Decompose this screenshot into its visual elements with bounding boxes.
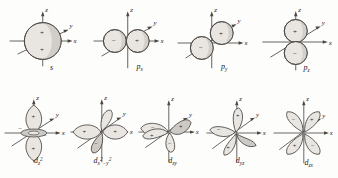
sign-plus-upper-right: +: [310, 116, 314, 123]
sign-plus-top: +: [293, 28, 297, 36]
sign-plus-lower-left: +: [293, 142, 297, 149]
orbital-label-sub: z: [308, 67, 310, 73]
orbital-label-sub: x: [141, 66, 143, 72]
sign-plus-upper: +: [236, 112, 240, 119]
axis-arrow-y: [63, 30, 68, 33]
orbital-cell-dyz: + − + z y x dyz: [203, 88, 271, 178]
axis-arrow-z: [100, 99, 103, 104]
axis-label-y: y: [69, 22, 74, 30]
axis-label-y: y: [255, 111, 259, 118]
orbital-label-pz: pz: [304, 63, 310, 73]
sign-minus-bottom: −: [292, 50, 296, 58]
orbital-row-s-p: + + z y x s: [0, 0, 338, 89]
axis-label-x: x: [73, 38, 78, 46]
sign-minus-left: −: [112, 38, 116, 46]
axis-arrow-z: [303, 100, 306, 105]
axis-label-y: y: [152, 19, 157, 27]
orbital-row-d: + + − − z y x dz2: [0, 88, 338, 178]
orbital-cell-pz: + − z y x pz: [254, 0, 338, 89]
axis-label-z: z: [44, 6, 48, 14]
sign-minus-lower: −: [94, 140, 98, 147]
axis-label-y: y: [320, 19, 325, 27]
axis-arrow-x: [239, 41, 244, 44]
axis-label-z: z: [129, 6, 133, 14]
sign-plus-lower: +: [226, 144, 230, 151]
orbital-label-sup: 2: [40, 156, 43, 162]
sign-minus-upper-left: −: [292, 116, 296, 123]
axis-label-y: y: [121, 110, 126, 118]
sign-plus-upper: +: [219, 30, 223, 38]
axis-arrow-x: [190, 130, 195, 133]
orbital-label-sub: zx: [308, 162, 313, 168]
sign-plus-lower: +: [40, 46, 44, 54]
axis-label-z: z: [170, 95, 174, 102]
orbital-lobe-lower-right: [237, 134, 256, 147]
axis-arrow-z: [126, 11, 129, 16]
sign-plus-lower-left: +: [150, 132, 154, 139]
sign-plus-upper-right: +: [179, 123, 183, 130]
orbital-label-dyz: dyz: [236, 156, 245, 166]
axis-label-y: y: [55, 111, 60, 119]
orbital-lobe-left-negative: [210, 127, 235, 137]
axis-label-x: x: [329, 129, 333, 136]
axis-label-z: z: [213, 6, 217, 14]
axis-label-z: z: [306, 95, 310, 102]
orbital-cell-dzx: − + + − z y x dzx: [270, 88, 338, 178]
orbital-diagram-pz: + − z y x: [254, 0, 338, 89]
orbital-label-dzx: dzx: [304, 158, 313, 168]
axis-label-x: x: [159, 38, 164, 46]
sign-minus-torus-right: −: [43, 132, 47, 139]
orbital-diagram-s: + + z y x: [0, 0, 85, 89]
axis-label-x: x: [128, 128, 133, 136]
orbital-label-sub: y: [225, 66, 227, 72]
axis-label-x: x: [327, 39, 332, 47]
sign-minus-torus-left: −: [18, 125, 22, 132]
axis-arrow-x: [154, 39, 159, 42]
orbital-cell-dxy: − + + − z y x dxy: [135, 88, 203, 178]
axis-arrow-z: [167, 100, 170, 105]
orbital-label-py: py: [221, 62, 227, 72]
axis-label-z: z: [238, 95, 242, 102]
sign-minus-upper-left: −: [151, 124, 155, 131]
axis-arrow-x: [257, 131, 262, 134]
orbital-label-dxy: dxy: [168, 156, 177, 166]
sign-minus-lower: −: [199, 44, 203, 52]
orbital-cell-dz2: + + − − z y x dz2: [0, 88, 68, 178]
sign-plus-right: +: [135, 38, 139, 46]
axis-arrow-x: [56, 131, 61, 134]
sign-plus-left: +: [82, 128, 86, 135]
orbital-label-px: px: [137, 62, 143, 72]
orbital-cell-px: − + z y x px: [85, 0, 170, 89]
axis-arrow-z: [41, 11, 44, 16]
orbital-label-sub: yz: [240, 160, 245, 166]
axis-label-x: x: [244, 39, 249, 47]
axis-label-z: z: [103, 94, 107, 102]
sign-minus-left: −: [217, 126, 221, 133]
axis-label-y: y: [322, 112, 326, 119]
sign-plus-bottom: +: [32, 145, 36, 152]
orbital-label-dz2: dz2: [34, 156, 43, 166]
axis-label-x: x: [61, 129, 66, 137]
axis-arrow-x: [68, 39, 73, 42]
orbital-cell-py: + − z y x py: [169, 0, 254, 89]
axis-label-y: y: [237, 17, 242, 25]
orbital-shapes-figure: + + z y x s: [0, 0, 338, 178]
orbital-diagram-py: + − z y x: [169, 0, 254, 89]
axis-arrow-z: [235, 100, 238, 105]
axis-label-z: z: [297, 6, 301, 14]
sign-plus-right: +: [113, 128, 117, 135]
orbital-label-tail-sup: 2: [109, 156, 112, 162]
axis-arrow-z: [210, 11, 213, 16]
axis-arrow-x: [322, 40, 327, 43]
orbital-lobe-x-negative-side: [73, 125, 101, 139]
axis-label-x: x: [195, 128, 199, 135]
axis-label-x: x: [262, 129, 266, 136]
orbital-torus-inner: [28, 131, 39, 135]
axis-arrow-x: [324, 131, 329, 134]
orbital-cell-s: + + z y x s: [0, 0, 85, 89]
sign-plus-top: +: [32, 113, 36, 120]
orbital-label-sub: xy: [172, 160, 177, 166]
axis-label-y: y: [188, 111, 192, 118]
sign-minus-lower-right: −: [168, 140, 172, 147]
orbital-cell-dx2-y2: + + − z y x dx2−y2: [68, 88, 136, 178]
